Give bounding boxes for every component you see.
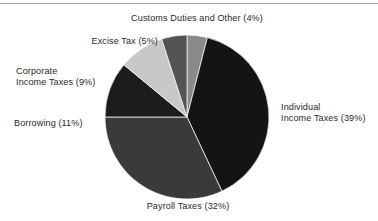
chart-plot-area: Customs Duties and Other (4%) Excise Tax… — [0, 0, 378, 221]
slice-label-customs-duties-and-other: Customs Duties and Other (4%) — [107, 13, 287, 24]
slice-label-borrowing: Borrowing (11%) — [14, 118, 140, 129]
slice-label-corporate-income-taxes: Corporate Income Taxes (9%) — [16, 66, 152, 89]
pie-chart-figure: Customs Duties and Other (4%) Excise Tax… — [0, 0, 378, 221]
slice-label-line: Payroll Taxes (32%) — [118, 201, 258, 212]
slice-label-line: Income Taxes (39%) — [281, 113, 377, 124]
slice-label-line: Borrowing (11%) — [14, 118, 140, 129]
slice-label-line: Excise Tax (5%) — [38, 36, 158, 47]
slice-label-line: Individual — [281, 102, 377, 113]
pie-slice-group — [105, 35, 269, 199]
slice-label-line: Corporate — [16, 66, 152, 77]
slice-label-payroll-taxes: Payroll Taxes (32%) — [118, 201, 258, 212]
slice-label-line: Customs Duties and Other (4%) — [107, 13, 287, 24]
slice-label-excise-tax: Excise Tax (5%) — [38, 36, 158, 47]
slice-label-line: Income Taxes (9%) — [16, 77, 152, 88]
slice-label-individual-income-taxes: Individual Income Taxes (39%) — [281, 102, 377, 125]
